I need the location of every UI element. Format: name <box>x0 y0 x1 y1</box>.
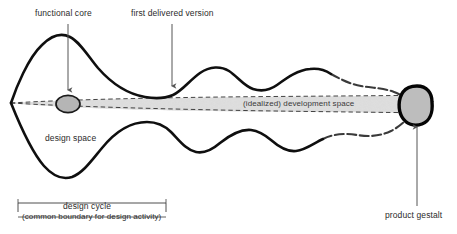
annotation-arrows <box>68 24 417 206</box>
label-first-delivered-version: first delivered version <box>131 8 214 18</box>
diagram-canvas: functional core first delivered version … <box>0 0 457 234</box>
label-design-space: design space <box>45 133 96 143</box>
functional-core-ellipse <box>56 95 80 112</box>
label-development-space: (idealized) development space <box>243 99 354 108</box>
diagram-graphics <box>0 0 457 234</box>
label-common-boundary: (common boundary for design activity) <box>22 212 161 221</box>
label-functional-core: functional core <box>35 8 92 18</box>
label-design-cycle: design cycle <box>63 201 111 211</box>
label-product-gestalt: product gestalt <box>385 210 442 220</box>
product-gestalt-blob <box>399 86 432 125</box>
design-space-upper-curve <box>11 35 406 103</box>
